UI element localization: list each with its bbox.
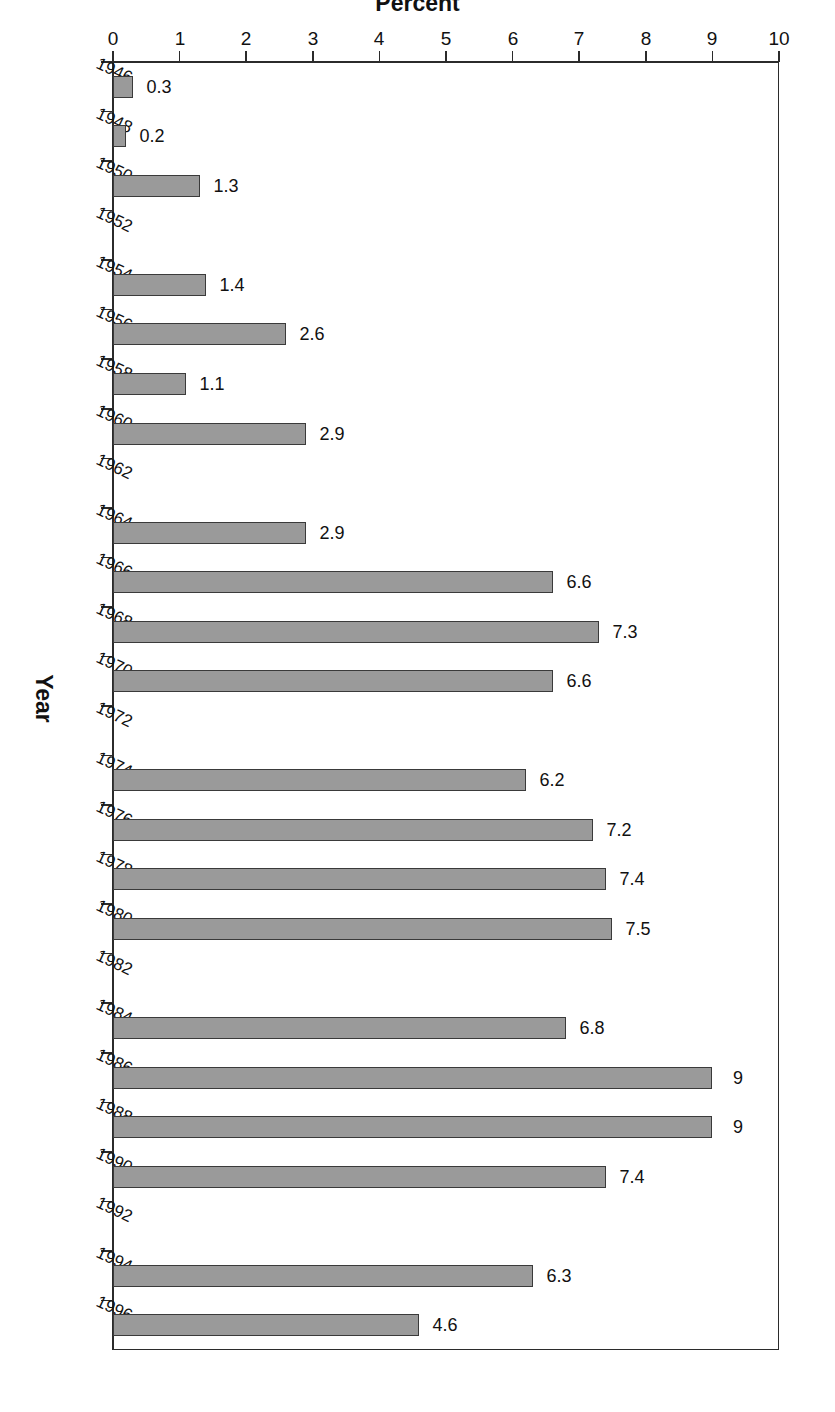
value-tick-label: 2 bbox=[226, 28, 266, 50]
bar bbox=[113, 670, 553, 692]
value-tick-label: 8 bbox=[626, 28, 666, 50]
value-tick bbox=[445, 51, 447, 62]
value-tick bbox=[645, 51, 647, 62]
y-axis-title: Year bbox=[30, 659, 57, 739]
bar-value-label: 9 bbox=[718, 1117, 758, 1138]
bar-value-label: 1.3 bbox=[206, 176, 246, 197]
bar bbox=[113, 323, 286, 345]
bar bbox=[113, 1265, 533, 1287]
value-tick-label: 7 bbox=[559, 28, 599, 50]
bar-value-label: 6.3 bbox=[539, 1266, 579, 1287]
bar bbox=[113, 76, 133, 98]
bar bbox=[113, 423, 306, 445]
value-tick-label: 9 bbox=[692, 28, 732, 50]
bar bbox=[113, 621, 599, 643]
value-tick bbox=[712, 51, 714, 62]
value-tick bbox=[312, 51, 314, 62]
bar bbox=[113, 571, 553, 593]
value-tick bbox=[578, 51, 580, 62]
value-tick bbox=[512, 51, 514, 62]
bar-value-label: 2.9 bbox=[312, 424, 352, 445]
value-tick-label: 5 bbox=[426, 28, 466, 50]
bar-value-label: 2.9 bbox=[312, 523, 352, 544]
bar bbox=[113, 373, 186, 395]
value-tick-label: 3 bbox=[293, 28, 333, 50]
bar bbox=[113, 918, 613, 940]
value-tick-label: 0 bbox=[93, 28, 133, 50]
value-tick bbox=[245, 51, 247, 62]
bar bbox=[113, 175, 200, 197]
bar-value-label: 7.5 bbox=[619, 919, 659, 940]
value-tick-label: 1 bbox=[160, 28, 200, 50]
bar-value-label: 7.3 bbox=[605, 622, 645, 643]
chart-page: 109876543210 194619481950195219541956195… bbox=[0, 0, 835, 1412]
bar bbox=[113, 1166, 606, 1188]
bar-value-label: 6.6 bbox=[559, 572, 599, 593]
plot-area bbox=[113, 62, 779, 1350]
bar bbox=[113, 1017, 566, 1039]
bar bbox=[113, 125, 126, 147]
x-axis-title: Percent bbox=[0, 0, 835, 17]
bar bbox=[113, 1314, 419, 1336]
bar-value-label: 9 bbox=[718, 1068, 758, 1089]
bar bbox=[113, 274, 206, 296]
rotated-figure-wrapper: 109876543210 194619481950195219541956195… bbox=[0, 0, 835, 1412]
bar-value-label: 0.2 bbox=[132, 126, 172, 147]
value-tick bbox=[379, 51, 381, 62]
value-tick bbox=[778, 51, 780, 62]
bar-value-label: 1.1 bbox=[192, 374, 232, 395]
bar-value-label: 7.4 bbox=[612, 1167, 652, 1188]
bar bbox=[113, 1067, 712, 1089]
bar-value-label: 6.6 bbox=[559, 671, 599, 692]
value-tick-label: 6 bbox=[493, 28, 533, 50]
bar-chart-figure: 109876543210 194619481950195219541956195… bbox=[0, 0, 835, 1412]
bar-value-label: 6.2 bbox=[532, 770, 572, 791]
bar-value-label: 7.2 bbox=[599, 820, 639, 841]
value-tick-label: 10 bbox=[759, 28, 799, 50]
value-tick-label: 4 bbox=[359, 28, 399, 50]
bar bbox=[113, 868, 606, 890]
bar bbox=[113, 522, 306, 544]
bar bbox=[113, 819, 593, 841]
bar-value-label: 4.6 bbox=[425, 1315, 465, 1336]
bar bbox=[113, 1116, 712, 1138]
bar-value-label: 6.8 bbox=[572, 1018, 612, 1039]
bar-value-label: 7.4 bbox=[612, 869, 652, 890]
bar-value-label: 0.3 bbox=[139, 77, 179, 98]
bar bbox=[113, 769, 526, 791]
bar-value-label: 2.6 bbox=[292, 324, 332, 345]
bar-value-label: 1.4 bbox=[212, 275, 252, 296]
value-tick bbox=[179, 51, 181, 62]
